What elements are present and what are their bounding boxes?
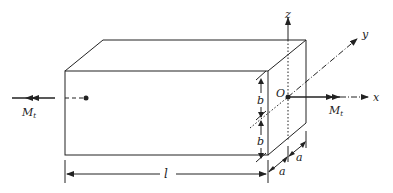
y-hidden-line xyxy=(250,97,288,128)
a-back-label: a xyxy=(296,151,303,164)
double-arrow-left-icon xyxy=(25,95,39,101)
b-top-label: b xyxy=(257,94,264,107)
origin-dot xyxy=(286,95,291,100)
length-label: l xyxy=(164,167,168,181)
b-bottom-label: b xyxy=(257,135,264,148)
y-axis xyxy=(288,39,357,97)
top-right-edge xyxy=(268,40,306,71)
a-front-label: a xyxy=(279,165,286,178)
front-face xyxy=(65,71,268,155)
top-left-edge xyxy=(65,40,103,71)
y-axis-label: y xyxy=(361,28,369,41)
left-centroid-dot xyxy=(84,96,89,101)
double-arrow-right-icon xyxy=(326,94,340,100)
torque-left-label: Mt xyxy=(21,106,36,120)
z-axis-label: z xyxy=(284,8,291,21)
torsion-bar-diagram: Mt Mt O x y z b b a a l xyxy=(0,0,393,193)
torque-right-label: Mt xyxy=(328,104,343,118)
origin-label: O xyxy=(276,87,285,100)
x-axis-label: x xyxy=(373,91,380,104)
